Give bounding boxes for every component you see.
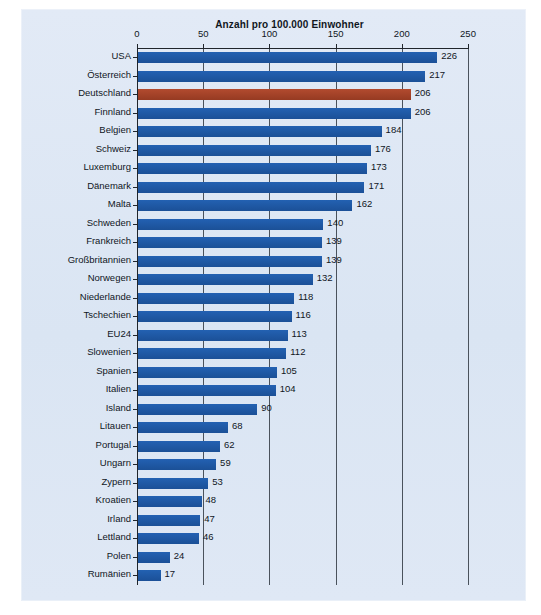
bar-value-gro-britannien: 139 [326, 254, 342, 265]
bar-irland[interactable] [138, 515, 200, 526]
bar-value-lettland: 46 [203, 531, 214, 542]
y-tick-Island [133, 409, 137, 410]
bar-value-malta: 162 [356, 198, 372, 209]
y-tick-Schweiz [133, 150, 137, 151]
y-tick-Österreich [133, 76, 137, 77]
bar--sterreich[interactable] [138, 71, 425, 82]
bar-value-litauen: 68 [232, 420, 243, 431]
bar-row[interactable]: Luxemburg173 [137, 159, 468, 178]
bar-value-eu24: 113 [292, 328, 307, 339]
bar-deutschland[interactable] [138, 89, 411, 100]
bar-row[interactable]: Malta162 [137, 196, 468, 215]
bar-row[interactable]: Kroatien48 [137, 492, 468, 511]
bar-frankreich[interactable] [138, 237, 322, 248]
category-label-belgien: Belgien [99, 124, 131, 135]
bar-litauen[interactable] [138, 422, 228, 433]
bar-polen[interactable] [138, 552, 170, 563]
bar-row[interactable]: EU24113 [137, 326, 468, 345]
bar-row[interactable]: Schweiz176 [137, 141, 468, 160]
category-label-polen: Polen [107, 550, 131, 561]
y-tick-USA [133, 57, 137, 58]
bar-eu24[interactable] [138, 330, 288, 341]
bar-row[interactable]: Portugal62 [137, 437, 468, 456]
category-label-zypern: Zypern [101, 476, 131, 487]
bar-portugal[interactable] [138, 441, 220, 452]
bar-belgien[interactable] [138, 126, 382, 137]
category-label-irland: Irland [107, 513, 131, 524]
category-label-ungarn: Ungarn [100, 457, 131, 468]
y-tick-Schweden [133, 224, 137, 225]
bar-value-rum-nien: 17 [165, 568, 176, 579]
bar-row[interactable]: Polen24 [137, 548, 468, 567]
bar-row[interactable]: Niederlande118 [137, 289, 468, 308]
category-label-slowenien: Slowenien [87, 346, 131, 357]
bar-norwegen[interactable] [138, 274, 313, 285]
bar-value-portugal: 62 [224, 439, 235, 450]
bar-row[interactable]: Litauen68 [137, 418, 468, 437]
bar-row[interactable]: USA226 [137, 48, 468, 67]
bar-rum-nien[interactable] [138, 570, 161, 581]
bar-row[interactable]: Frankreich139 [137, 233, 468, 252]
bar-row[interactable]: Irland47 [137, 511, 468, 530]
category-label-malta: Malta [108, 198, 131, 209]
bar-row[interactable]: Island90 [137, 400, 468, 419]
bar-value-zypern: 53 [212, 476, 223, 487]
x-tick-label-200: 200 [394, 28, 410, 39]
bar-kroatien[interactable] [138, 496, 202, 507]
bar-luxemburg[interactable] [138, 163, 367, 174]
bar-row[interactable]: Schweden140 [137, 215, 468, 234]
bar-row[interactable]: Tschechien116 [137, 307, 468, 326]
bar-value-italien: 104 [280, 383, 296, 394]
bar-value-deutschland: 206 [415, 87, 431, 98]
bar-niederlande[interactable] [138, 293, 294, 304]
bar-ungarn[interactable] [138, 459, 216, 470]
x-tick-label-0: 0 [134, 28, 139, 39]
bar-row[interactable]: Spanien105 [137, 363, 468, 382]
bar-schweiz[interactable] [138, 145, 371, 156]
bar-row[interactable]: Zypern53 [137, 474, 468, 493]
bar-row[interactable]: Österreich217 [137, 67, 468, 86]
bar-row[interactable]: Belgien184 [137, 122, 468, 141]
bar-spanien[interactable] [138, 367, 277, 378]
bar-value-spanien: 105 [281, 365, 297, 376]
y-tick-Niederlande [133, 298, 137, 299]
bar-finnland[interactable] [138, 108, 411, 119]
category-label--sterreich: Österreich [87, 69, 131, 80]
bar-schweden[interactable] [138, 219, 323, 230]
y-tick-Portugal [133, 446, 137, 447]
y-tick-Irland [133, 520, 137, 521]
bar-gro-britannien[interactable] [138, 256, 322, 267]
bar-value-luxemburg: 173 [371, 161, 387, 172]
bar-d-nemark[interactable] [138, 182, 364, 193]
bar-row[interactable]: Italien104 [137, 381, 468, 400]
bar-value-polen: 24 [174, 550, 185, 561]
bar-zypern[interactable] [138, 478, 208, 489]
bar-island[interactable] [138, 404, 257, 415]
bar-slowenien[interactable] [138, 348, 286, 359]
bar-row[interactable]: Norwegen132 [137, 270, 468, 289]
category-label-niederlande: Niederlande [80, 291, 131, 302]
bar-row[interactable]: Ungarn59 [137, 455, 468, 474]
bar-row[interactable]: Finnland206 [137, 104, 468, 123]
bar-tschechien[interactable] [138, 311, 292, 322]
bar-value-norwegen: 132 [317, 272, 333, 283]
bar-row[interactable]: Rumänien17 [137, 566, 468, 585]
bar-value-schweiz: 176 [375, 143, 391, 154]
category-label-usa: USA [111, 50, 131, 61]
bar-italien[interactable] [138, 385, 276, 396]
bar-row[interactable]: Dänemark171 [137, 178, 468, 197]
chart-panel: Anzahl pro 100.000 Einwohner 05010015020… [21, 9, 526, 601]
bar-lettland[interactable] [138, 533, 199, 544]
bar-row[interactable]: Großbritannien139 [137, 252, 468, 271]
category-label-gro-britannien: Großbritannien [68, 254, 131, 265]
bar-value-island: 90 [261, 402, 272, 413]
y-tick-Deutschland [133, 94, 137, 95]
category-label-luxemburg: Luxemburg [83, 161, 131, 172]
category-label-island: Island [106, 402, 131, 413]
bar-malta[interactable] [138, 200, 352, 211]
bar-row[interactable]: Deutschland206 [137, 85, 468, 104]
bar-row[interactable]: Lettland46 [137, 529, 468, 548]
bar-usa[interactable] [138, 52, 437, 63]
category-label-norwegen: Norwegen [88, 272, 131, 283]
bar-row[interactable]: Slowenien112 [137, 344, 468, 363]
